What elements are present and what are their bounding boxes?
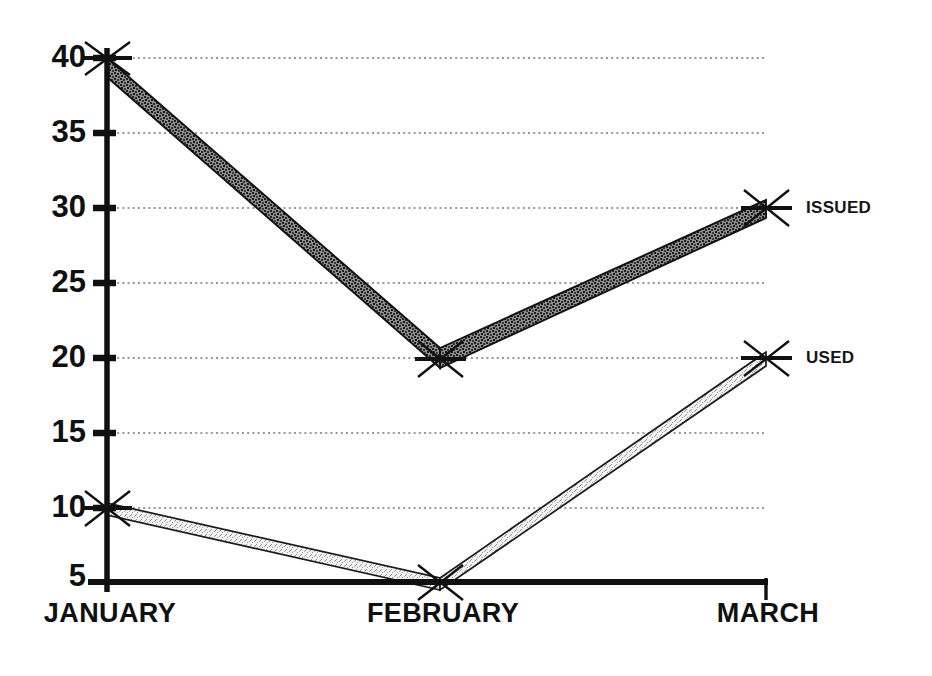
y-label-35: 35	[52, 114, 86, 149]
y-label-25: 25	[52, 264, 86, 299]
line-chart: 40 35 30 25 20 15 10 5	[0, 0, 932, 676]
legend-label-issued: ISSUED	[806, 198, 871, 217]
y-label-40: 40	[52, 39, 86, 74]
y-label-10: 10	[52, 489, 86, 524]
legend-label-used: USED	[806, 348, 854, 367]
y-label-20: 20	[52, 339, 86, 374]
y-label-30: 30	[52, 189, 86, 224]
x-label-january: JANUARY	[44, 598, 176, 628]
chart-canvas: 40 35 30 25 20 15 10 5	[0, 0, 932, 676]
y-label-5: 5	[69, 558, 86, 593]
x-label-march: MARCH	[717, 598, 820, 628]
x-label-february: FEBRUARY	[367, 598, 519, 628]
y-label-15: 15	[52, 414, 86, 449]
